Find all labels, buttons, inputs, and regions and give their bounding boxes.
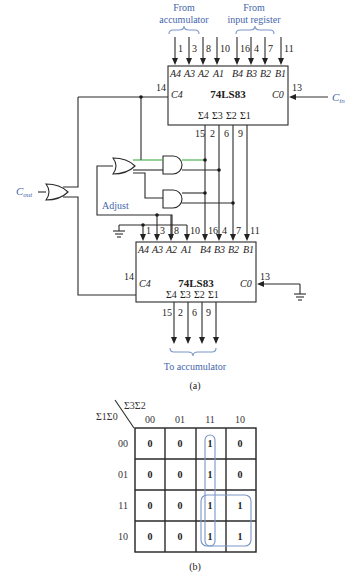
top-pin-a2: 8 — [206, 43, 211, 54]
bottom-label-a3: A3 — [151, 244, 163, 255]
kmap-cell: 0 — [148, 531, 153, 542]
bottom-pin-c4: 14 — [124, 271, 134, 282]
kmap-cell: 0 — [178, 500, 183, 511]
top-pin-s2: 6 — [224, 128, 229, 139]
bottom-label-a2: A2 — [165, 244, 177, 255]
bottom-label-a4: A4 — [137, 244, 149, 255]
bottom-pin-a2: 8 — [174, 225, 179, 236]
kmap-cell: 1 — [208, 469, 213, 480]
karnaugh-map: Σ3Σ2 Σ1Σ0 00 01 11 10 00 01 11 10 0 0 1 … — [96, 400, 256, 552]
top-pin-c0: 13 — [292, 82, 302, 93]
top-label-s1: Σ1 — [240, 110, 251, 121]
bottom-pin-b3: 4 — [222, 225, 227, 236]
top-pin-s4: 15 — [195, 128, 205, 139]
bottom-chip-name: 74LS83 — [178, 277, 214, 289]
top-label-a4: A4 — [169, 68, 181, 79]
kmap-cell: 0 — [148, 438, 153, 449]
bottom-label-b1: B1 — [243, 244, 254, 255]
accumulator-brace — [169, 26, 199, 34]
caption-b: (b) — [189, 561, 201, 573]
bottom-label-b3: B3 — [214, 244, 225, 255]
top-label-b2: B2 — [260, 68, 271, 79]
top-pin-a1: 10 — [220, 43, 230, 54]
top-pin-a3: 3 — [192, 43, 197, 54]
from-accumulator-label-1: From — [173, 2, 195, 13]
top-label-s2: Σ2 — [226, 110, 237, 121]
or-gate-cout — [46, 184, 68, 200]
kmap-cell: 1 — [238, 531, 243, 542]
top-label-s4: Σ4 — [198, 110, 209, 121]
bottom-label-s1: Σ1 — [208, 289, 219, 300]
bottom-pin-a4: 1 — [146, 225, 151, 236]
kmap-cell: 0 — [238, 469, 243, 480]
kmap-cell: 0 — [178, 438, 183, 449]
kmap-col-var: Σ3Σ2 — [124, 400, 146, 411]
top-label-b3: B3 — [246, 68, 257, 79]
top-chip-name: 74LS83 — [210, 88, 246, 100]
caption-a: (a) — [189, 380, 200, 392]
bottom-pin-b1: 11 — [250, 225, 260, 236]
kmap-cell: 0 — [178, 531, 183, 542]
kmap-col-00: 00 — [145, 414, 155, 425]
top-label-b4: B4 — [232, 68, 243, 79]
bottom-label-c4: C4 — [139, 278, 151, 289]
kmap-cell: 0 — [238, 438, 243, 449]
kmap-col-01: 01 — [175, 414, 185, 425]
top-label-s3: Σ3 — [212, 110, 223, 121]
kmap-cell: 0 — [148, 469, 153, 480]
kmap-row-var: Σ1Σ0 — [96, 411, 118, 422]
kmap-cell: 0 — [148, 500, 153, 511]
kmap-cell: 1 — [208, 500, 213, 511]
kmap-col-11: 11 — [205, 414, 215, 425]
adjust-label: Adjust — [102, 200, 129, 211]
bottom-label-b2: B2 — [228, 244, 239, 255]
bottom-label-b4: B4 — [200, 244, 211, 255]
top-pin-a4: 1 — [178, 43, 183, 54]
bottom-pin-a3: 3 — [160, 225, 165, 236]
top-label-a1: A1 — [212, 68, 224, 79]
bottom-label-s4: Σ4 — [166, 289, 177, 300]
top-label-a3: A3 — [183, 68, 195, 79]
bottom-pin-a1: 10 — [190, 225, 200, 236]
top-pin-s1: 9 — [238, 128, 243, 139]
bottom-label-s3: Σ3 — [180, 289, 191, 300]
bottom-pin-s3: 2 — [178, 307, 183, 318]
kmap-cell: 1 — [238, 500, 243, 511]
and-gate-1 — [163, 156, 182, 174]
bottom-pin-s1: 9 — [206, 307, 211, 318]
top-pin-b1: 11 — [284, 43, 294, 54]
kmap-row-11: 11 — [118, 500, 128, 511]
top-pin-b2: 7 — [268, 43, 273, 54]
or-gate-3-input — [113, 158, 135, 174]
top-pin-s3: 2 — [210, 128, 215, 139]
top-pin-c4: 14 — [156, 82, 166, 93]
kmap-cell: 1 — [208, 531, 213, 542]
bottom-pin-s4: 15 — [162, 307, 172, 318]
kmap-cell: 0 — [178, 469, 183, 480]
bottom-label-a1: A1 — [180, 244, 192, 255]
top-label-c4: C4 — [171, 89, 183, 100]
top-label-c0: C0 — [272, 89, 284, 100]
bcd-adder-diagram: From accumulator From input register 1 3… — [0, 0, 360, 585]
from-input-label-1: From — [243, 2, 265, 13]
kmap-col-10: 10 — [235, 414, 245, 425]
and-gate-2 — [163, 190, 182, 208]
kmap-row-01: 01 — [118, 469, 128, 480]
top-pin-b3: 4 — [254, 43, 259, 54]
top-pin-b4: 16 — [240, 43, 250, 54]
top-label-a2: A2 — [197, 68, 209, 79]
output-brace — [170, 348, 216, 356]
bottom-pin-b4: 16 — [208, 225, 218, 236]
bottom-pin-c0: 13 — [260, 271, 270, 282]
from-accumulator-label-2: accumulator — [159, 14, 209, 25]
kmap-row-00: 00 — [118, 438, 128, 449]
bottom-pin-s2: 6 — [192, 307, 197, 318]
bottom-pin-b2: 7 — [236, 225, 241, 236]
top-label-b1: B1 — [275, 68, 286, 79]
cout-label: Cout — [16, 185, 33, 199]
cin-label: Cin — [332, 91, 345, 105]
kmap-cell: 1 — [208, 438, 213, 449]
to-accumulator-label: To accumulator — [164, 361, 227, 372]
input-brace — [236, 26, 274, 34]
kmap-row-10: 10 — [118, 531, 128, 542]
